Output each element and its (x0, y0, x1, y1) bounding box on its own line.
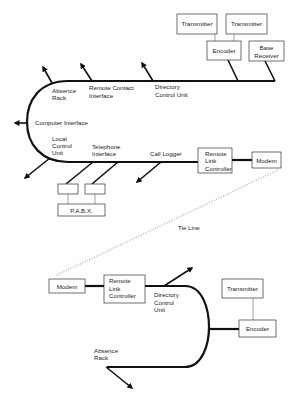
transmitter-box-bottom: Transmitter (222, 279, 263, 298)
svg-text:Rack: Rack (52, 94, 67, 101)
remote-link-controller-box-top: Remote Link Controller (198, 148, 232, 173)
svg-text:Encoder: Encoder (212, 47, 235, 54)
transmitter-box-1: Transmitter (177, 14, 217, 34)
svg-text:Base: Base (259, 44, 274, 51)
tie-line-label: Tie Line (178, 224, 200, 231)
svg-text:Controller: Controller (205, 165, 232, 172)
svg-text:Link: Link (205, 157, 217, 164)
svg-text:Link: Link (109, 285, 121, 292)
local-control-arrow (25, 158, 50, 178)
base-receiver-box: Base Receiver (249, 41, 284, 61)
absence-rack-arrow (43, 67, 52, 83)
svg-text:Transmitter: Transmitter (227, 285, 258, 292)
telephone-port-box-1 (58, 184, 78, 194)
svg-text:Remote: Remote (205, 150, 227, 157)
svg-text:Control Unit: Control Unit (155, 91, 188, 98)
remote-contact-label: Remote Contact (89, 84, 134, 91)
directory-arrow (142, 63, 153, 81)
svg-text:Transmitter: Transmitter (231, 20, 262, 27)
svg-text:Unit: Unit (154, 306, 165, 313)
svg-text:Transmitter: Transmitter (181, 20, 212, 27)
directory-label: Directory (155, 83, 181, 90)
svg-text:Modem: Modem (256, 157, 277, 164)
modem-box-bottom: Modem (49, 279, 85, 293)
remote-link-controller-box-bottom: Remote Link Controller (104, 275, 145, 303)
svg-text:Modem: Modem (57, 283, 78, 290)
transmitter-box-2: Transmitter (226, 14, 267, 34)
pabx-box: P.A.B.X. (58, 204, 105, 216)
svg-text:Remote: Remote (109, 277, 131, 284)
svg-text:Control: Control (154, 299, 174, 306)
absence-rack-label: Absence (52, 87, 77, 94)
local-control-label: Local (52, 135, 67, 142)
call-logger-label: Call Logger (150, 150, 182, 157)
system-diagram: Transmitter Transmitter Encoder Base Rec… (0, 0, 297, 406)
svg-text:Unit: Unit (52, 149, 63, 156)
bottom-absence-rack-label: Absence (94, 347, 119, 354)
svg-text:Receiver: Receiver (254, 52, 278, 59)
telephone-port-box-2 (85, 184, 105, 194)
svg-text:Controller: Controller (109, 292, 136, 299)
svg-text:Interface: Interface (92, 150, 117, 157)
telephone-interface-label: Telephone (92, 143, 121, 150)
svg-text:Control: Control (52, 142, 72, 149)
svg-text:Rack: Rack (94, 354, 109, 361)
computer-interface-label: Computer Interface (35, 119, 89, 126)
encoder-box-bottom: Encoder (239, 320, 276, 337)
modem-box-top: Modem (252, 152, 281, 168)
bottom-absence-rack-arrow (106, 367, 132, 388)
remote-contact-arrow (81, 64, 92, 81)
svg-text:Interface: Interface (89, 92, 114, 99)
call-logger-arrow (137, 162, 161, 182)
svg-text:Encoder: Encoder (246, 325, 269, 332)
bottom-directory-arrow (164, 268, 192, 286)
bottom-directory-label: Directory (154, 291, 180, 298)
svg-text:P.A.B.X.: P.A.B.X. (70, 207, 93, 214)
encoder-box: Encoder (207, 41, 241, 60)
